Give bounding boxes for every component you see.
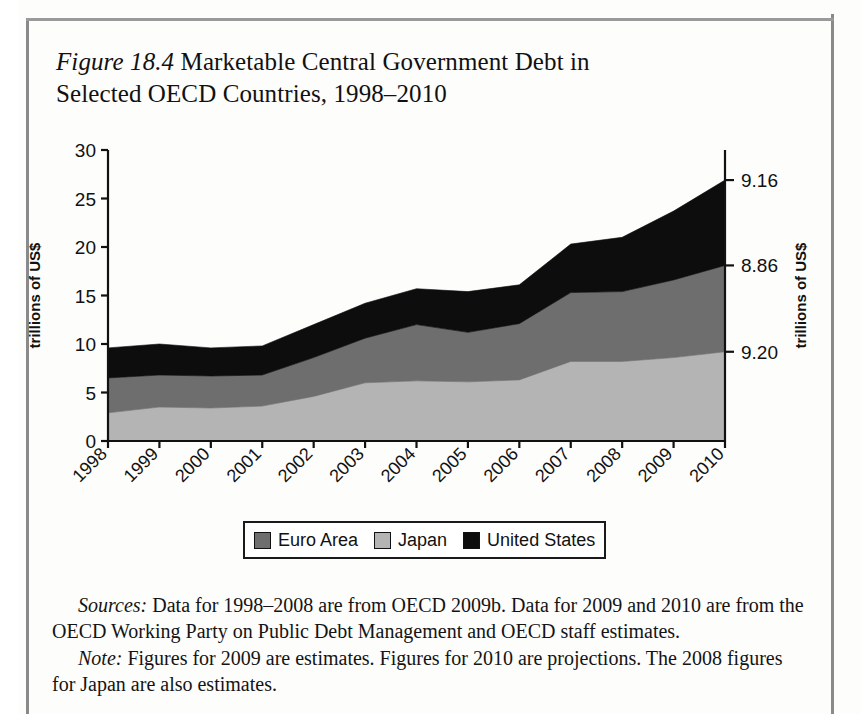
y-tick-label-left: 30 <box>75 140 96 161</box>
y-tick-label-left: 15 <box>75 286 96 307</box>
y-tick-label-right: 8.86 <box>741 255 778 276</box>
y-tick-label-right: 9.16 <box>741 170 778 191</box>
x-tick-label: 1999 <box>120 444 162 486</box>
legend-swatch-icon <box>374 532 391 549</box>
x-tick-label: 2004 <box>377 444 419 486</box>
x-tick-label: 2002 <box>274 444 316 486</box>
page-rule-left <box>26 18 29 714</box>
chart-legend: Euro AreaJapanUnited States <box>243 521 606 559</box>
legend-swatch-icon <box>254 532 271 549</box>
legend-swatch-icon <box>463 532 480 549</box>
x-tick-label: 2006 <box>480 444 522 486</box>
legend-item-euro-area: Euro Area <box>254 530 358 551</box>
legend-label: United States <box>487 530 595 551</box>
x-tick-label: 1998 <box>68 444 110 486</box>
x-tick-label: 2009 <box>634 444 676 486</box>
x-tick-label: 2007 <box>531 444 573 486</box>
figure-caption: Figure 18.4 Marketable Central Governmen… <box>56 46 676 110</box>
area-series-euro-area <box>108 265 725 412</box>
y-tick-label-left: 20 <box>75 237 96 258</box>
area-series-united-states <box>108 180 725 378</box>
y-tick-label-left: 0 <box>85 431 96 452</box>
area-series-japan <box>108 352 725 441</box>
sources-note: Sources: Data for 1998–2008 are from OEC… <box>52 592 804 645</box>
page-edge-left <box>0 0 18 714</box>
y-tick-label-left: 5 <box>85 383 96 404</box>
legend-label: Euro Area <box>278 530 358 551</box>
x-tick-label: 2003 <box>325 444 367 486</box>
figure-number: Figure 18.4 <box>56 48 174 75</box>
legend-item-united-states: United States <box>463 530 595 551</box>
y-tick-label-left: 10 <box>75 334 96 355</box>
x-tick-label: 2005 <box>428 444 470 486</box>
sources-label: Sources: <box>78 594 147 616</box>
x-tick-label: 2008 <box>583 444 625 486</box>
y-axis-title-right: trillions of US$ <box>792 242 809 349</box>
legend-label: Japan <box>398 530 447 551</box>
y-tick-label-right: 9.20 <box>741 342 778 363</box>
figure-notes: Sources: Data for 1998–2008 are from OEC… <box>52 592 804 698</box>
x-tick-label: 2010 <box>685 444 727 486</box>
y-tick-label-left: 25 <box>75 189 96 210</box>
x-tick-label: 2000 <box>171 444 213 486</box>
page-rule-right <box>831 14 834 714</box>
legend-item-japan: Japan <box>374 530 447 551</box>
sources-text: Data for 1998–2008 are from OECD 2009b. … <box>52 594 804 642</box>
page-rule-top <box>26 18 834 21</box>
x-tick-label: 2001 <box>223 444 265 486</box>
note-label: Note: <box>78 647 122 669</box>
figure-page: Figure 18.4 Marketable Central Governmen… <box>0 0 861 714</box>
note-text: Figures for 2009 are estimates. Figures … <box>52 647 782 695</box>
note-line: Note: Figures for 2009 are estimates. Fi… <box>52 645 804 698</box>
